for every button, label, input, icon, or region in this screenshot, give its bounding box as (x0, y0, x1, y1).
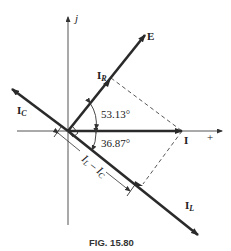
angle-label-upper: 53.13° (101, 108, 130, 120)
axes (17, 17, 222, 225)
angle-label-lower: 36.87° (101, 137, 130, 149)
phasor-IL (68, 131, 198, 235)
phasor-diagram: j + E IR IC I IL 53.13° 36.87° IL – IC F… (0, 0, 231, 251)
real-axis-label: + (207, 131, 213, 143)
IL-mid-arrow (134, 181, 143, 186)
angle-arcs (90, 103, 96, 150)
label-IL: IL (185, 199, 194, 213)
label-IC: IC (17, 104, 27, 118)
dimension-label: IL – IC (78, 152, 110, 182)
imag-axis-label: j (73, 12, 78, 24)
label-E: E (147, 30, 154, 42)
label-I: I (184, 134, 188, 146)
label-IR: IR (97, 69, 107, 83)
figure-caption: FIG. 15.80 (89, 237, 134, 248)
